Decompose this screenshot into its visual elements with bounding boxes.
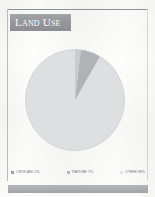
footer-bar	[8, 185, 148, 193]
chart-legend: Cropland 2% Pasture 7% Other 98%	[11, 168, 145, 177]
page-title: Land Use	[15, 16, 61, 29]
legend-item-cropland: Cropland 2%	[11, 170, 40, 175]
panel-top-rule	[7, 9, 148, 10]
land-use-infographic-panel: Land Use Cropland 2% Pasture 7%	[0, 0, 155, 197]
legend-label-pasture: Pasture 7%	[72, 170, 93, 175]
legend-swatch-icon-pasture	[67, 171, 70, 174]
pie-chart	[7, 35, 148, 163]
legend-swatch-icon-other	[120, 171, 123, 174]
panel-frame: Land Use Cropland 2% Pasture 7%	[7, 9, 148, 187]
legend-item-other: Other 98%	[120, 170, 145, 175]
legend-label-cropland: Cropland 2%	[16, 170, 40, 175]
legend-label-other: Other 98%	[125, 170, 145, 175]
pie-slices	[26, 50, 125, 151]
legend-swatch-icon-cropland	[11, 171, 14, 174]
title-banner: Land Use	[10, 14, 71, 31]
pie-chart-svg	[25, 49, 125, 151]
legend-item-pasture: Pasture 7%	[67, 170, 93, 175]
